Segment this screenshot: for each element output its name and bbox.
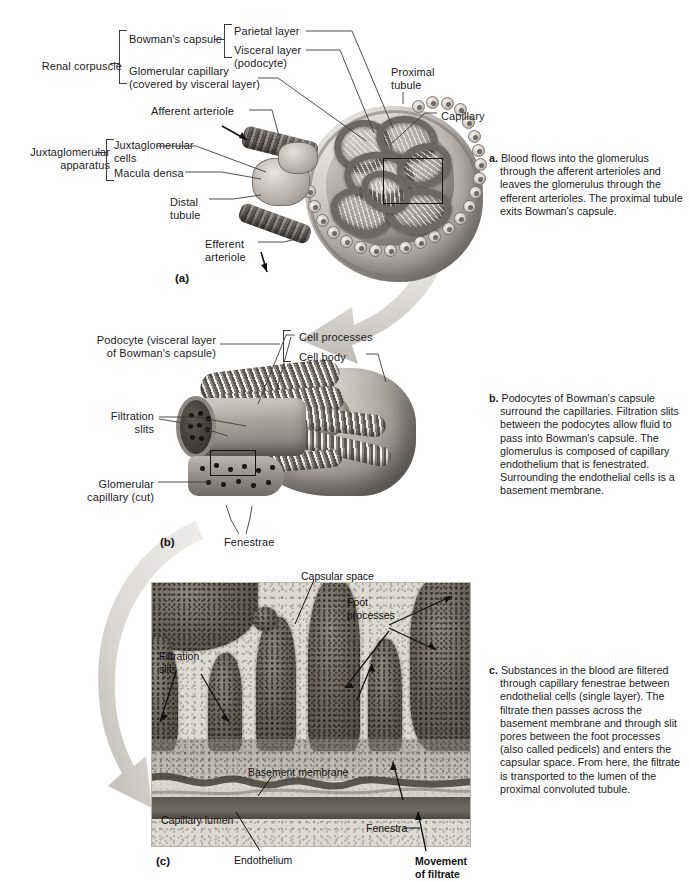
tubule-epithelial-cell [463,200,476,213]
capillary-cut-face [176,396,216,458]
label-proximal-tubule: Proximal tubule [391,66,435,92]
efferent-flow-arrowhead [261,263,267,272]
caption-c-tag: c. [489,664,498,677]
leader-distal-tubule [209,195,261,199]
label-basement-membrane: Basement membrane [248,766,348,779]
foot-process [208,653,242,751]
tubule-epithelial-cell [472,144,485,157]
caption-b-tag: b. [489,392,499,405]
foot-process [256,617,296,751]
label-capsular-space: Capsular space [301,570,374,583]
bracket-podocyte [283,330,291,362]
foot-process [368,639,402,751]
tubule-epithelial-cell [414,236,427,249]
macula-densa-segment [278,142,318,174]
tubule-epithelial-cell [340,235,353,248]
tubule-epithelial-cell [399,241,412,254]
label-capillary: Capillary [441,110,485,123]
caption-a: a. Blood flows into the glomerulus throu… [489,152,685,218]
label-distal-tubule: Distal tubule [170,196,201,222]
label-capillary-lumen: Capillary lumen [161,814,233,827]
foot-process [410,583,470,751]
tubule-epithelial-cell [412,100,425,113]
label-filtration-slits-c: Filtration slits [159,650,199,675]
label-macula-densa: Macula densa [114,167,184,180]
leader-macula-densa [185,172,261,179]
caption-b-text: Podocytes of Bowman's capsule surround t… [489,392,685,498]
tubule-epithelial-cell [474,158,487,171]
tubule-epithelial-cell [316,214,329,227]
label-bowmans-capsule: Bowman's capsule [129,33,222,46]
caption-b: b. Podocytes of Bowman's capsule surroun… [489,392,685,498]
panel-a-tag: (a) [175,272,189,284]
label-parietal-layer: Parietal layer [234,25,300,38]
efferent-flow-arrow [261,252,267,272]
tubule-epithelial-cell [327,226,340,239]
panel-c-tag: (c) [156,855,170,867]
figure-root: Renal corpuscle Bowman's capsule Parieta… [0,0,690,882]
leader-renal-corpuscle [110,63,120,64]
label-juxtaglomerular-apparatus: Juxtaglomerular apparatus [6,146,110,172]
label-glomerular-capillary: Glomerular capillary (covered by viscera… [129,65,260,91]
label-filtration-slits-b: Filtration slits [62,410,154,436]
bracket-bowmans-capsule [224,24,232,58]
tubule-epithelial-cell [469,186,482,199]
label-movement-of-filtrate: Movement of filtrate [415,855,467,880]
tubule-epithelial-cell [354,241,367,254]
label-podocyte: Podocyte (visceral layer of Bowman's cap… [60,334,216,360]
leader-bowmans-capsule [214,39,225,40]
panel-a-illustration [300,96,500,288]
label-renal-corpuscle: Renal corpuscle [12,60,122,73]
label-cell-body: Cell body [299,351,346,364]
leader-juxtaglomerular-apparatus [96,152,107,153]
panel-a-inset-box [383,158,443,204]
label-juxtaglomerular-cells: Juxtaglomerular cells [114,139,194,165]
label-fenestra: Fenestra [366,822,407,835]
label-cell-processes: Cell processes [299,331,373,344]
caption-c: c. Substances in the blood are filtered … [489,664,685,796]
label-fenestrae: Fenestrae [224,536,274,549]
tubule-epithelial-cell [369,244,382,257]
caption-a-tag: a. [489,152,498,165]
bracket-renal-corpuscle [119,30,127,84]
tubule-epithelial-cell [384,244,397,257]
label-afferent-arteriole: Afferent arteriole [151,105,234,118]
label-endothelium: Endothelium [234,854,292,867]
foot-process-small [252,607,278,631]
tubule-epithelial-cell [473,172,486,185]
tubule-epithelial-cell [468,130,481,143]
tubule-epithelial-cell [426,96,439,109]
panel-b-illustration [178,352,418,524]
label-foot-processes: Foot processes [347,596,395,621]
tubule-epithelial-cell [454,212,467,225]
tubule-epithelial-cell [441,97,454,110]
caption-c-text: Substances in the blood are filtered thr… [489,664,685,796]
label-glomerular-capillary-cut: Glomerular capillary (cut) [44,478,154,504]
label-efferent-arteriole: Efferent arteriole [205,238,246,264]
panel-b-inset-box [210,450,256,476]
panel-c-micrograph [152,583,470,846]
tubule-epithelial-cell [308,200,321,213]
bracket-juxtaglomerular [106,139,114,181]
panel-b-tag: (b) [160,536,175,548]
efferent-arteriole-vessel [237,202,313,245]
caption-a-text: Blood flows into the glomerulus through … [489,152,685,218]
